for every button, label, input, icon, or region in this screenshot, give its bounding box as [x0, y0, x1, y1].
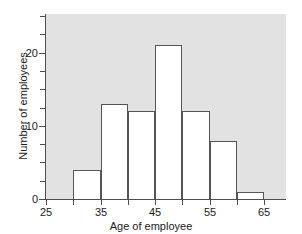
y-axis-tick [40, 71, 45, 72]
x-axis-tick [128, 200, 129, 205]
y-axis-tick [40, 181, 45, 182]
x-axis-tick-label: 25 [31, 206, 61, 218]
x-axis-title: Age of employee [0, 220, 302, 232]
y-axis-tick [39, 126, 45, 127]
y-axis-tick-label: 0 [32, 194, 38, 205]
plot-area [46, 14, 286, 199]
histogram-bar [73, 170, 100, 199]
histogram-bar [155, 45, 182, 199]
histogram-figure: 01020 2535455565 Number of employees Age… [0, 0, 302, 234]
x-axis-tick-label: 45 [140, 206, 170, 218]
x-axis-tick [73, 200, 74, 205]
y-axis-spine [45, 14, 46, 200]
y-axis-tick [40, 16, 45, 17]
x-axis-tick [210, 200, 211, 205]
y-axis-tick [40, 34, 45, 35]
x-axis-spine [45, 199, 286, 200]
histogram-bar [182, 111, 209, 199]
x-axis-tick-label: 35 [86, 206, 116, 218]
histogram-bar [128, 111, 155, 199]
x-axis-tick [155, 200, 156, 205]
x-axis-tick-label: 65 [249, 206, 279, 218]
y-axis-tick [39, 53, 45, 54]
x-axis-tick [101, 200, 102, 205]
x-axis-tick [237, 200, 238, 205]
histogram-bar [237, 192, 264, 199]
y-axis-title: Number of employees [17, 11, 29, 201]
histogram-bar [210, 141, 237, 199]
x-axis-tick [264, 200, 265, 205]
x-axis-tick [182, 200, 183, 205]
y-axis-tick [40, 162, 45, 163]
y-axis-tick [40, 108, 45, 109]
x-axis-tick [46, 200, 47, 205]
y-axis-tick [40, 144, 45, 145]
x-axis-tick-label: 55 [195, 206, 225, 218]
histogram-bar [101, 104, 128, 199]
y-axis-tick [39, 199, 45, 200]
y-axis-tick [40, 89, 45, 90]
